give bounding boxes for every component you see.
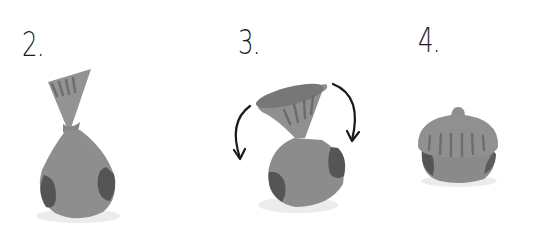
step-4-sock-illustration [418, 107, 498, 187]
illustration-canvas [0, 0, 538, 240]
step-2-sock-illustration [36, 69, 120, 223]
step-3-sock-illustration [234, 79, 359, 213]
right-fold-arrow-icon [333, 84, 355, 140]
left-fold-arrow-icon [236, 106, 250, 158]
